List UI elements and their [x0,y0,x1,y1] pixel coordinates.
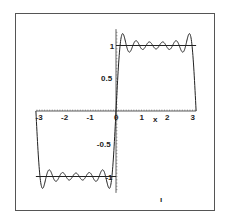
stray-mark: ı [160,195,162,204]
x-tick-label: 2 [165,113,170,122]
y-tick-label: 0.5 [101,74,113,83]
x-tick-label: -3 [36,113,44,122]
x-tick-label: -2 [61,113,69,122]
x-tick-label: 0 [114,113,119,122]
y-tick-label: -0.5 [97,140,111,149]
x-tick-label: -1 [87,113,95,122]
plot-area: -3-2-10123x10.5-0.5-1 ı [0,0,227,224]
y-tick-label: -1 [105,173,113,182]
y-tick-label: 1 [110,42,115,51]
x-tick-label: 1 [140,113,145,122]
x-axis-label: x [153,115,158,124]
x-tick-label: 3 [191,113,196,122]
